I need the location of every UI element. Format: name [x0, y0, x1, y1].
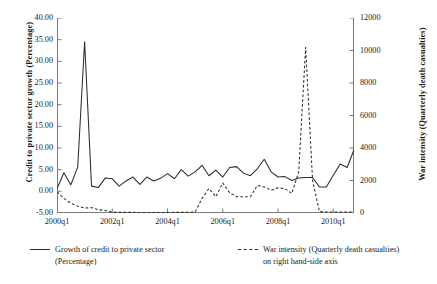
legend-entry-war: War intensity (Quarterly death casualtie…	[238, 244, 399, 267]
legend-label-war-line2: on right hand-side axis	[263, 256, 399, 268]
right-tick-label: 4000	[360, 144, 402, 152]
left-tick-label: 15.00	[11, 122, 53, 130]
right-tick-label: 6000	[360, 112, 402, 120]
chart-figure: Credit to private sector growth (Percent…	[0, 0, 437, 284]
x-tick-label: 2002q1	[87, 218, 137, 226]
right-tick-label: 10000	[360, 47, 402, 55]
x-tick-label: 2000q1	[32, 218, 82, 226]
x-tick-label: 2010q1	[308, 218, 358, 226]
x-tick-label: 2008q1	[253, 218, 303, 226]
legend-label-credit-line2: (Percentage)	[55, 256, 164, 268]
right-tick-label: 0	[360, 209, 402, 217]
series-line-credit	[57, 42, 354, 189]
series-line-war	[57, 47, 354, 212]
left-tick-label: 25.00	[11, 79, 53, 87]
right-tick-label: 8000	[360, 79, 402, 87]
left-tick-label: 10.00	[11, 144, 53, 152]
left-tick-label: 30.00	[11, 57, 53, 65]
legend-entry-credit: Growth of credit to private sector (Perc…	[30, 244, 164, 267]
legend-swatch-dashed	[238, 249, 258, 252]
left-tick-label: 20.00	[11, 101, 53, 109]
left-tick-label: 40.00	[11, 14, 53, 22]
legend-label-credit-line1: Growth of credit to private sector	[55, 244, 164, 256]
left-tick-label: -5.00	[11, 209, 53, 217]
right-axis-title: War intensity (Quarterly death casualtie…	[419, 9, 427, 199]
plot-svg	[57, 18, 354, 213]
right-tick-label: 2000	[360, 177, 402, 185]
right-tick-label: 12000	[360, 14, 402, 22]
x-tick-label: 2006q1	[198, 218, 248, 226]
left-tick-label: 5.00	[11, 166, 53, 174]
legend-swatch-solid	[30, 249, 50, 252]
x-tick-label: 2004q1	[143, 218, 193, 226]
left-tick-label: 35.00	[11, 36, 53, 44]
legend-label-war-line1: War intensity (Quarterly death casualtie…	[263, 244, 399, 256]
plot-area	[57, 18, 354, 213]
left-tick-label: 0.00	[11, 187, 53, 195]
